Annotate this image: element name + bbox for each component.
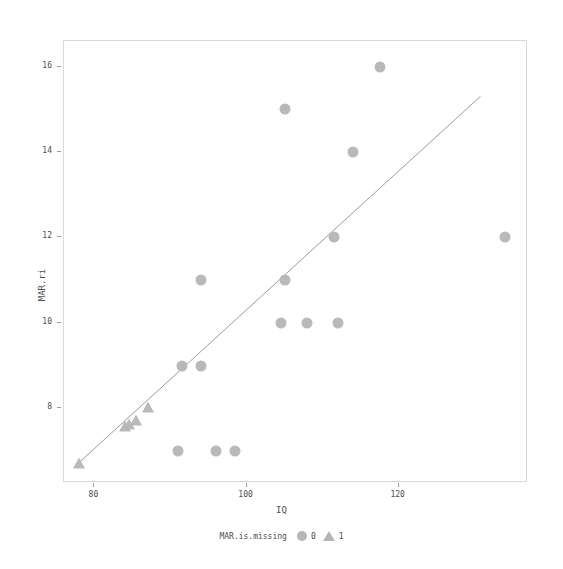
data-point-circle (230, 445, 241, 456)
y-tick-mark (57, 407, 61, 408)
y-axis-title: MAR.ri (37, 268, 47, 301)
y-tick-label: 12 (34, 231, 52, 240)
plot-area (64, 41, 526, 481)
y-tick-mark (57, 151, 61, 152)
data-point-circle (279, 104, 290, 115)
data-point-circle (275, 317, 286, 328)
legend: MAR.is.missing 0 1 (0, 531, 563, 541)
data-point-circle (302, 317, 313, 328)
y-tick-mark (57, 236, 61, 237)
data-point-circle (173, 445, 184, 456)
data-point-triangle (119, 421, 131, 432)
y-tick-mark (57, 66, 61, 67)
data-point-circle (374, 61, 385, 72)
y-tick-label: 16 (34, 61, 52, 70)
x-tick-mark (398, 483, 399, 487)
legend-key-0[interactable]: 0 (297, 531, 316, 541)
data-point-circle (176, 360, 187, 371)
y-tick-label: 10 (34, 317, 52, 326)
y-tick-mark (57, 322, 61, 323)
legend-label-0: 0 (311, 532, 316, 541)
legend-label-1: 1 (339, 532, 344, 541)
data-point-triangle (142, 402, 154, 413)
scatter-plot: 810121416 80100120 MAR.ri IQ MAR.is.miss… (0, 0, 563, 569)
data-point-triangle (73, 457, 85, 468)
legend-key-1[interactable]: 1 (323, 531, 344, 541)
x-tick-mark (93, 483, 94, 487)
triangle-marker-icon (323, 531, 335, 541)
data-point-circle (211, 445, 222, 456)
x-tick-label: 80 (89, 490, 99, 499)
y-tick-label: 14 (34, 146, 52, 155)
plot-panel (63, 40, 527, 482)
data-point-circle (279, 275, 290, 286)
y-tick-label: 8 (34, 402, 52, 411)
data-point-circle (195, 360, 206, 371)
data-point-circle (348, 147, 359, 158)
circle-marker-icon (297, 531, 307, 541)
x-tick-label: 100 (238, 490, 252, 499)
data-point-circle (332, 317, 343, 328)
x-tick-label: 120 (390, 490, 404, 499)
x-axis-title: IQ (0, 505, 563, 515)
x-tick-mark (246, 483, 247, 487)
data-point-circle (329, 232, 340, 243)
data-point-circle (195, 275, 206, 286)
legend-title: MAR.is.missing (219, 532, 286, 541)
data-point-circle (500, 232, 511, 243)
